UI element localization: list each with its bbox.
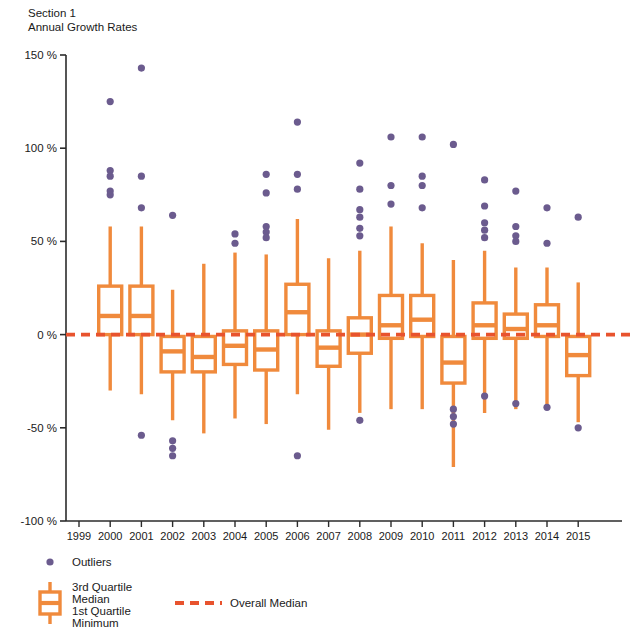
quartile-box: [536, 305, 559, 337]
outlier-point: [543, 404, 550, 411]
outlier-point: [107, 173, 114, 180]
outlier-point: [512, 223, 519, 230]
outlier-point: [169, 212, 176, 219]
x-axis-tick-label: 2015: [566, 530, 590, 542]
legend-outliers-label: Outliers: [72, 556, 112, 568]
boxplot-item[interactable]: [99, 98, 122, 391]
outlier-point: [263, 234, 270, 241]
outlier-point: [512, 400, 519, 407]
outlier-point: [169, 452, 176, 459]
boxplot-item[interactable]: [348, 160, 371, 424]
y-axis-tick-label: -50 %: [27, 422, 57, 434]
outlier-point: [138, 204, 145, 211]
legend-third-quartile-label: 3rd Quartile: [72, 581, 132, 593]
outlier-point: [356, 186, 363, 193]
y-axis-tick-label: 50 %: [31, 235, 57, 247]
outlier-point: [450, 406, 457, 413]
x-axis-tick-label: 2008: [348, 530, 372, 542]
outlier-point: [419, 204, 426, 211]
chart-root: Section 1 Annual Growth Rates 150 %100 %…: [0, 0, 635, 640]
outlier-point: [575, 214, 582, 221]
boxplot-series: [99, 64, 590, 466]
quartile-box: [99, 286, 122, 334]
x-axis-tick-label: 2005: [254, 530, 278, 542]
outlier-point: [169, 437, 176, 444]
legend-minimum-label: Minimum: [72, 617, 119, 629]
boxplot-item[interactable]: [442, 141, 465, 467]
legend-median-label: Median: [72, 593, 110, 605]
outlier-point: [481, 176, 488, 183]
outlier-point: [294, 186, 301, 193]
outlier-point: [356, 160, 363, 167]
outlier-point: [543, 240, 550, 247]
outlier-point: [356, 417, 363, 424]
x-axis-tick-label: 2013: [504, 530, 528, 542]
quartile-box: [192, 336, 215, 371]
boxplot-figure: 150 %100 %50 %0 %-50 %-100 % 19992000200…: [0, 0, 635, 640]
outlier-point: [419, 182, 426, 189]
boxplot-item[interactable]: [224, 230, 247, 418]
outlier-point: [512, 238, 519, 245]
outlier-point: [138, 432, 145, 439]
outlier-point: [356, 206, 363, 213]
outlier-point: [231, 240, 238, 247]
outlier-point: [419, 133, 426, 140]
outlier-point: [294, 119, 301, 126]
x-axis-tick-label: 1999: [67, 530, 91, 542]
x-axis-tick-label: 2002: [160, 530, 184, 542]
outlier-point: [512, 187, 519, 194]
chart-legend: Outliers3rd QuartileMedian1st QuartileMi…: [40, 556, 307, 629]
boxplot-item[interactable]: [380, 133, 403, 409]
outlier-point: [481, 227, 488, 234]
outlier-point: [387, 133, 394, 140]
outlier-point: [263, 189, 270, 196]
outlier-point: [481, 234, 488, 241]
boxplot-item[interactable]: [255, 171, 278, 424]
outlier-point: [450, 413, 457, 420]
outlier-point: [419, 173, 426, 180]
y-axis-tick-label: 0 %: [37, 329, 57, 341]
boxplot-item[interactable]: [473, 176, 496, 413]
outlier-point: [543, 204, 550, 211]
outlier-point: [387, 201, 394, 208]
outlier-point: [169, 445, 176, 452]
boxplot-item[interactable]: [411, 133, 434, 409]
boxplot-item[interactable]: [130, 64, 153, 438]
quartile-box: [286, 284, 309, 334]
boxplot-item[interactable]: [504, 187, 527, 409]
outlier-point: [575, 424, 582, 431]
quartile-box: [442, 336, 465, 383]
x-axis-tick-label: 2011: [442, 530, 466, 542]
outlier-point: [138, 64, 145, 71]
boxplot-item[interactable]: [536, 204, 559, 411]
outlier-point: [107, 191, 114, 198]
outlier-point: [294, 171, 301, 178]
outlier-point: [481, 393, 488, 400]
quartile-box: [411, 295, 434, 336]
legend-first-quartile-label: 1st Quartile: [72, 605, 131, 617]
boxplot-item[interactable]: [192, 264, 215, 434]
x-axis-tick-label: 2004: [223, 530, 247, 542]
quartile-box: [380, 295, 403, 338]
outlier-point: [231, 230, 238, 237]
outlier-point: [356, 232, 363, 239]
boxplot-item[interactable]: [317, 258, 340, 429]
x-axis-tick-label: 2006: [285, 530, 309, 542]
outlier-point: [387, 182, 394, 189]
x-axis-tick-label: 2012: [472, 530, 496, 542]
boxplot-item[interactable]: [567, 214, 590, 432]
outlier-point: [450, 141, 457, 148]
y-axis-tick-label: -100 %: [21, 515, 57, 527]
y-axis-tick-label: 100 %: [24, 142, 57, 154]
outlier-point: [356, 225, 363, 232]
boxplot-item[interactable]: [286, 119, 309, 460]
outlier-point: [294, 452, 301, 459]
outlier-point: [481, 219, 488, 226]
x-axis: 1999200020012002200320042005200620072008…: [66, 521, 622, 542]
x-axis-tick-label: 2007: [316, 530, 340, 542]
outlier-point: [450, 420, 457, 427]
outlier-point: [481, 202, 488, 209]
quartile-box: [161, 336, 184, 371]
x-axis-tick-label: 2010: [410, 530, 434, 542]
legend-outlier-icon: [46, 558, 53, 565]
